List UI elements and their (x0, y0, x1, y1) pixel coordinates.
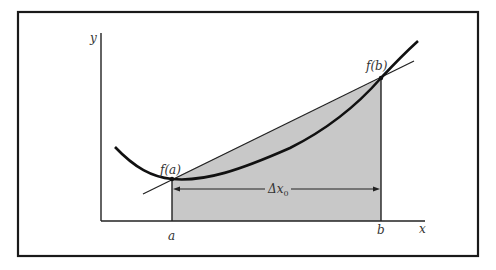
x-axis-label: x (419, 222, 426, 236)
y-axis-label: y (89, 31, 97, 45)
delta-x-symbol: Δx (267, 182, 284, 196)
trapezoid-area-diagram: y x a b f(a) f(b) Δx0 (0, 0, 496, 270)
delta-x-subscript: 0 (283, 189, 288, 198)
fb-label: f(b) (365, 59, 388, 73)
shaded-trapezoid (172, 78, 381, 221)
fa-label: f(a) (159, 163, 181, 177)
b-label: b (377, 223, 385, 237)
point-fb (379, 76, 383, 80)
point-fa (170, 177, 174, 181)
a-label: a (168, 229, 175, 243)
